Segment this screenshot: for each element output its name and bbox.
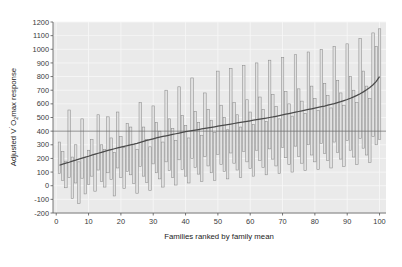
range-bar	[146, 139, 149, 182]
x-tick-label: 70	[278, 217, 286, 226]
range-bar	[265, 122, 268, 175]
range-bar	[165, 90, 168, 162]
range-bar	[210, 120, 213, 173]
range-bar	[65, 161, 68, 188]
range-bar	[152, 106, 155, 164]
range-bar	[278, 119, 281, 174]
range-bar	[103, 150, 106, 188]
y-tick-label: 700	[37, 86, 49, 95]
y-tick-label: -100	[34, 195, 49, 204]
y-tick-label: 1100	[33, 31, 49, 40]
range-bar	[213, 133, 216, 181]
range-bar	[217, 71, 220, 154]
range-bar	[336, 81, 339, 153]
range-bar	[68, 110, 71, 178]
range-bar	[74, 145, 77, 183]
range-bar	[375, 47, 378, 145]
y-tick-label: 1200	[33, 18, 49, 27]
range-bar	[243, 66, 246, 152]
x-tick-label: 0	[54, 217, 58, 226]
range-bar	[281, 57, 284, 147]
range-bar	[175, 141, 178, 185]
x-tick-label: 80	[311, 217, 319, 226]
range-bar	[188, 138, 191, 183]
svg-text:Adjusted V˙O2max response: Adjusted V˙O2max response	[8, 68, 18, 166]
x-tick-label: 60	[246, 217, 254, 226]
range-bar	[320, 49, 323, 143]
x-tick-label: 30	[149, 217, 157, 226]
y-axis-title: Adjusted V˙O2max response	[8, 68, 18, 166]
range-bar	[158, 131, 161, 179]
range-bar	[259, 97, 262, 160]
range-bar	[349, 77, 352, 151]
range-bar	[297, 89, 300, 157]
y-tick-label: 400	[37, 127, 49, 136]
range-bar	[200, 135, 203, 181]
range-bar	[113, 152, 116, 196]
y-tick-label: 100	[37, 168, 49, 177]
range-bar-chart: 0102030405060708090100 -200-100010020030…	[0, 0, 402, 267]
range-bar	[94, 154, 97, 191]
range-bar	[97, 115, 100, 170]
range-bar	[220, 105, 223, 164]
range-bar	[365, 86, 368, 155]
x-tick-label: 20	[117, 217, 125, 226]
range-bar	[133, 145, 136, 184]
range-bar	[184, 126, 187, 176]
range-bar	[110, 138, 113, 180]
range-bar	[339, 93, 342, 159]
range-bar	[272, 94, 275, 159]
range-bar	[317, 111, 320, 170]
x-tick-label: 10	[84, 217, 92, 226]
range-bar	[226, 130, 229, 179]
range-bar	[194, 111, 197, 167]
range-bar	[100, 145, 103, 182]
y-tick-label: 600	[37, 99, 49, 108]
range-bar	[81, 119, 84, 178]
y-axis-title-suffix: max response	[9, 68, 18, 117]
range-bar	[168, 119, 171, 171]
range-bar	[84, 158, 87, 194]
x-tick-label: 90	[343, 217, 351, 226]
range-bar	[149, 147, 152, 191]
range-bar	[155, 122, 158, 172]
range-bar	[123, 148, 126, 189]
y-tick-label: 500	[37, 113, 49, 122]
figure-container: 0102030405060708090100 -200-100010020030…	[0, 0, 402, 267]
range-bar	[369, 98, 372, 162]
y-tick-label: 200	[37, 154, 49, 163]
x-tick-label: 100	[373, 217, 385, 226]
y-axis-title-prefix: Adjusted V	[9, 128, 18, 167]
range-bar	[343, 105, 346, 166]
range-bar	[268, 60, 271, 149]
x-tick-label: 40	[181, 217, 189, 226]
range-bar	[285, 92, 288, 158]
range-bar	[233, 102, 236, 163]
range-bar	[352, 90, 355, 157]
range-bar	[171, 128, 174, 177]
range-bar	[116, 112, 119, 168]
range-bar	[107, 117, 110, 173]
range-bar	[304, 113, 307, 170]
range-bar	[181, 115, 184, 169]
y-tick-label: 800	[37, 72, 49, 81]
range-bar	[91, 139, 94, 176]
range-bar	[291, 116, 294, 172]
range-bar	[330, 108, 333, 168]
y-tick-label: -200	[34, 209, 49, 218]
range-bar	[359, 38, 362, 138]
range-bar	[323, 83, 326, 153]
range-bar	[204, 93, 207, 156]
range-bar	[255, 63, 258, 150]
range-bar	[78, 162, 81, 204]
range-bar	[162, 142, 165, 187]
range-bar	[310, 86, 313, 155]
range-bar	[346, 44, 349, 141]
range-bar	[356, 102, 359, 164]
range-bar	[230, 68, 233, 153]
range-bar	[207, 109, 210, 166]
x-axis-title: Families ranked by family mean	[164, 232, 274, 241]
range-bar	[136, 150, 139, 194]
y-tick-label: 0	[45, 181, 49, 190]
range-bar	[239, 127, 242, 177]
